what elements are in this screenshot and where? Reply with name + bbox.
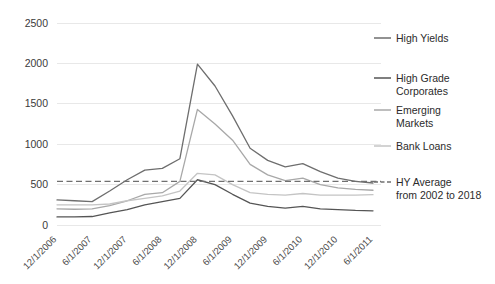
legend-label-bank-loans: Bank Loans	[396, 140, 451, 152]
y-axis-tick-label: 2000	[25, 57, 49, 69]
line-chart-container: 05001000150020002500 12/1/20066/1/200712…	[0, 0, 495, 284]
y-axis-tick-label: 500	[30, 178, 48, 190]
legend-label-emerging: Emerging	[396, 104, 441, 116]
y-axis-tick-label: 1000	[25, 138, 49, 150]
y-axis-tick-label: 1500	[25, 97, 49, 109]
y-axis-tick-label: 2500	[25, 17, 49, 29]
legend-label-hy-average-line2: from 2002 to 2018	[396, 189, 481, 201]
legend-label-hy-average: HY Average	[396, 176, 452, 188]
legend-label-emerging-line2: Markets	[396, 117, 433, 129]
y-axis-tick-label: 0	[42, 219, 48, 231]
legend-label-high-grade: High Grade	[396, 72, 450, 84]
legend-label-high-yields: High Yields	[396, 32, 449, 44]
line-chart-svg: 05001000150020002500 12/1/20066/1/200712…	[0, 0, 495, 284]
legend-label-high-grade-line2: Corporates	[396, 85, 448, 97]
